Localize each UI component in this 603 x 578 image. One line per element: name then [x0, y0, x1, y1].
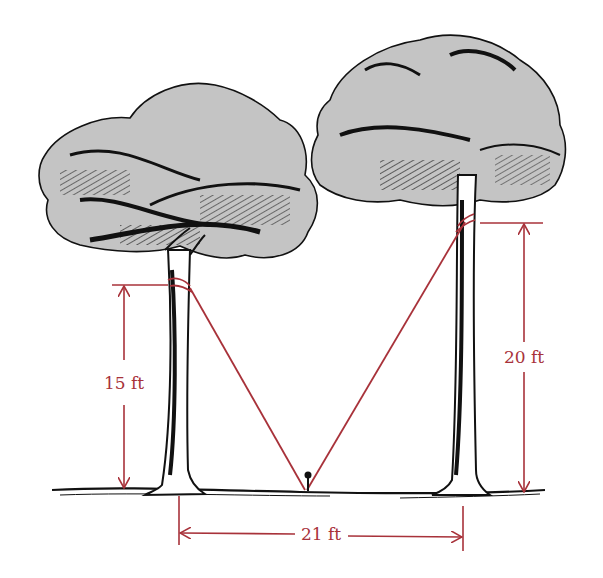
right-tree: [312, 35, 566, 495]
left-height-label: 15 ft: [104, 373, 144, 393]
left-tree-canopy: [39, 83, 317, 257]
two-trees-wire-diagram: 15 ft 20 ft 21 ft: [0, 0, 603, 578]
left-wire-segment: [190, 288, 305, 490]
right-height-label: 20 ft: [504, 347, 544, 367]
right-wire-segment: [307, 222, 465, 490]
left-tree-trunk: [145, 228, 205, 495]
left-tree: [39, 83, 317, 495]
base-distance-label: 21 ft: [301, 524, 341, 544]
right-tree-canopy: [312, 35, 566, 206]
stake: [305, 472, 312, 492]
